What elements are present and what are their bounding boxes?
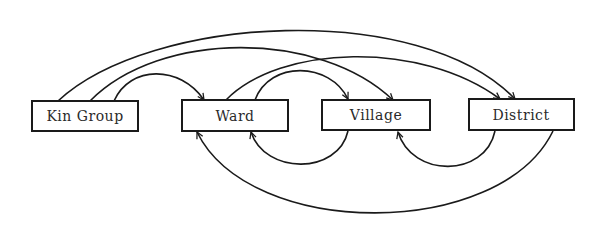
- node-village: Village: [322, 100, 430, 130]
- edge-village-to-ward: [251, 131, 348, 164]
- node-ward-label: Ward: [215, 108, 254, 124]
- node-kin-group-label: Kin Group: [46, 108, 123, 124]
- edge-kin-group-to-ward: [114, 74, 204, 101]
- node-ward: Ward: [182, 100, 288, 131]
- edge-kin-group-to-village: [90, 48, 393, 101]
- node-village-label: Village: [349, 107, 402, 123]
- node-district: District: [469, 99, 574, 130]
- edge-ward-to-village: [255, 71, 348, 100]
- node-kin-group: Kin Group: [32, 101, 138, 131]
- edge-district-to-village: [398, 131, 495, 166]
- node-district-label: District: [492, 107, 549, 123]
- edge-district-to-ward: [197, 131, 553, 213]
- diagram-canvas: Kin Group Ward Village District: [0, 0, 605, 230]
